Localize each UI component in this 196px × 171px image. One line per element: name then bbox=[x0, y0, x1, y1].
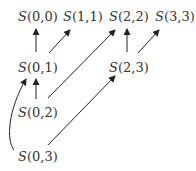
edge-s03-to-s23 bbox=[48, 76, 115, 145]
node-args: (0,2) bbox=[27, 105, 58, 120]
node-letter: S bbox=[109, 9, 118, 24]
node-letter: S bbox=[18, 60, 27, 75]
edge-s01-to-s11 bbox=[49, 30, 70, 53]
node-letter: S bbox=[63, 9, 72, 24]
node-letter: S bbox=[18, 149, 27, 164]
node-s23: S(2,3) bbox=[109, 61, 149, 75]
node-s22: S(2,2) bbox=[109, 10, 149, 24]
node-args: (2,3) bbox=[118, 60, 149, 75]
edge-s02-to-s22 bbox=[48, 30, 115, 98]
node-args: (3,3) bbox=[164, 9, 195, 24]
node-s03: S(0,3) bbox=[18, 150, 58, 164]
node-s11: S(1,1) bbox=[63, 10, 103, 24]
node-args: (0,1) bbox=[27, 60, 58, 75]
node-s01: S(0,1) bbox=[18, 61, 58, 75]
node-letter: S bbox=[155, 9, 164, 24]
node-args: (0,3) bbox=[27, 149, 58, 164]
diagram-canvas: S(0,0) S(1,1) S(2,2) S(3,3) S(0,1) S(2,3… bbox=[0, 0, 196, 171]
node-s02: S(0,2) bbox=[18, 106, 58, 120]
node-letter: S bbox=[18, 9, 27, 24]
node-letter: S bbox=[18, 105, 27, 120]
node-args: (2,2) bbox=[118, 9, 149, 24]
node-args: (1,1) bbox=[72, 9, 103, 24]
node-s33: S(3,3) bbox=[155, 10, 195, 24]
node-s00: S(0,0) bbox=[18, 10, 58, 24]
edges-layer bbox=[0, 0, 196, 171]
edge-s23-to-s33 bbox=[138, 30, 159, 53]
node-letter: S bbox=[109, 60, 118, 75]
node-args: (0,0) bbox=[27, 9, 58, 24]
